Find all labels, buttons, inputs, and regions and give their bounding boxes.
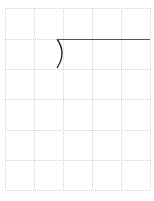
curved-stroke xyxy=(57,39,62,68)
drawing-canvas xyxy=(0,0,154,201)
grid xyxy=(5,8,151,191)
